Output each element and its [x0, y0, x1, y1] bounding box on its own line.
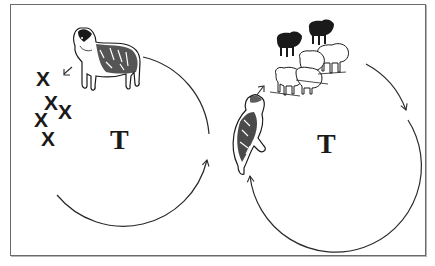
- standing-dog-icon: [74, 28, 140, 90]
- left-cycle-arrows: [57, 57, 209, 226]
- x-marker: X: [41, 128, 55, 149]
- diagram-artwork: [0, 0, 435, 266]
- left-arc-bottom: [57, 160, 207, 226]
- right-cycle-label: T: [317, 130, 336, 158]
- arrow-to-markers-icon: [64, 67, 72, 75]
- right-arc-top: [366, 64, 406, 110]
- diagram-canvas: X X X X X T T: [0, 0, 435, 266]
- x-marker: X: [58, 101, 72, 122]
- left-arc-top: [143, 57, 209, 134]
- left-cycle-label: T: [110, 126, 129, 154]
- rearing-dog-icon: [233, 95, 265, 175]
- x-marker: X: [36, 68, 50, 89]
